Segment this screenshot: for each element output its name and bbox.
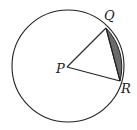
label-p: P [55, 61, 65, 76]
radius-pr [67, 67, 120, 81]
circle-diagram: P Q R [0, 0, 137, 130]
label-r: R [120, 81, 131, 96]
radius-pq [67, 28, 106, 67]
label-q: Q [104, 8, 115, 23]
